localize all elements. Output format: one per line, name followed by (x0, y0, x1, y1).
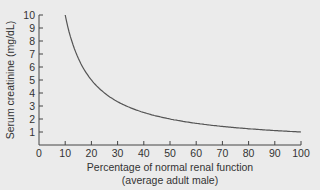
x-tick-label: 90 (269, 147, 281, 159)
x-tick-label: 10 (59, 147, 71, 159)
y-tick-label: 4 (29, 87, 35, 99)
y-tick-label: 3 (29, 100, 35, 112)
y-tick-label: 10 (23, 9, 35, 21)
x-axis-sublabel: (average adult male) (122, 174, 218, 186)
y-tick-label: 1 (29, 126, 35, 138)
x-axis-label: Percentage of normal renal function (87, 161, 254, 173)
y-tick-label: 8 (29, 35, 35, 47)
y-tick-label: 7 (29, 48, 35, 60)
x-tick-label: 80 (243, 147, 255, 159)
x-tick-label: 0 (36, 147, 42, 159)
y-axis-label: Serum creatinine (mg/dL) (4, 21, 16, 139)
y-tick-label: 6 (29, 61, 35, 73)
x-axis: 0102030405060708090100 (36, 141, 310, 159)
x-tick-label: 20 (86, 147, 98, 159)
x-tick-label: 30 (112, 147, 124, 159)
y-tick-label: 5 (29, 74, 35, 86)
y-tick-label: 2 (29, 113, 35, 125)
x-tick-label: 40 (138, 147, 150, 159)
creatinine-curve (65, 15, 301, 132)
x-tick-label: 60 (190, 147, 202, 159)
x-tick-label: 100 (292, 147, 310, 159)
creatinine-chart: 12345678910 0102030405060708090100 Perce… (0, 0, 320, 190)
x-tick-label: 50 (164, 147, 176, 159)
y-axis: 12345678910 (23, 9, 43, 146)
y-tick-label: 9 (29, 22, 35, 34)
x-tick-label: 70 (217, 147, 229, 159)
